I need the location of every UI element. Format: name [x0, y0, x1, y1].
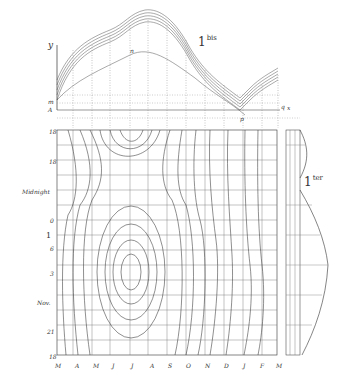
row-label-midnight: Midnight — [22, 188, 50, 195]
month-label: M — [55, 362, 61, 369]
point-a-label: A — [48, 106, 52, 113]
month-label: O — [186, 362, 191, 369]
month-label: J — [243, 362, 245, 369]
point-p-label: p — [240, 115, 244, 122]
x-axis-label: x — [287, 104, 290, 111]
figure-label-1bis: 1bis — [198, 35, 217, 49]
top-panel-curves — [57, 10, 278, 115]
month-label: A — [75, 362, 79, 369]
row-label: 18 — [49, 158, 57, 165]
y-axis-label: y — [48, 40, 53, 50]
month-label: M — [276, 362, 282, 369]
row-label: 18 — [49, 128, 57, 135]
row-label: 18 — [49, 353, 57, 360]
row-label: 3 — [50, 270, 54, 277]
month-label: D — [224, 362, 229, 369]
figure-suffix: ter — [313, 174, 323, 182]
point-q-label: q — [281, 103, 285, 110]
figure-label-1ter: 1ter — [304, 175, 323, 189]
figure-number: 1 — [198, 35, 206, 49]
figure-number: 1 — [304, 175, 312, 189]
row-label: 0 — [50, 217, 54, 224]
month-label: A — [150, 362, 154, 369]
point-n-label: n — [130, 47, 134, 54]
month-label: J — [131, 362, 133, 369]
month-label: J — [112, 362, 114, 369]
figure-suffix: bis — [207, 34, 217, 42]
row-label-nov: Nov. — [37, 299, 50, 306]
month-label: F — [260, 362, 264, 369]
row-label: 1 — [46, 231, 51, 240]
point-m-label: m — [48, 98, 54, 105]
row-label: 21 — [47, 328, 55, 335]
month-label: S — [168, 362, 172, 369]
month-label: M — [93, 362, 99, 369]
row-label: 6 — [50, 245, 54, 252]
month-label: N — [205, 362, 210, 369]
